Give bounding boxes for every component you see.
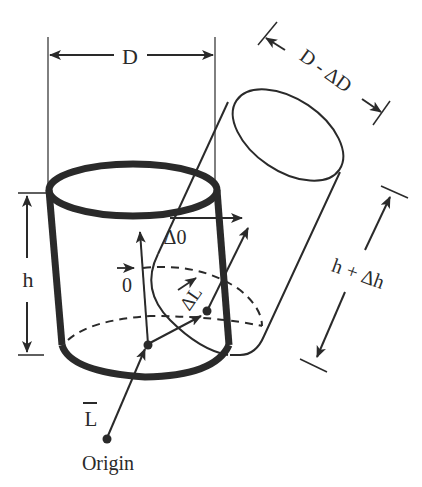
original-left-side	[49, 190, 62, 345]
arrow-downleft-icon	[317, 292, 345, 357]
point-material-end	[203, 307, 212, 316]
height-deformed-tick-bottom	[300, 359, 327, 372]
original-cylinder	[49, 164, 262, 377]
theta-label: 0	[122, 274, 132, 296]
extension-tick-right	[373, 101, 390, 125]
point-material-start	[144, 341, 153, 350]
cylinder-deformation-diagram: D D - ΔD h	[0, 0, 422, 487]
extension-tick-left	[258, 22, 277, 45]
diagram-canvas: D D - ΔD h	[0, 0, 422, 487]
deformed-right-side	[230, 172, 340, 355]
arrow-upleft-icon	[266, 38, 285, 50]
L-label: L	[85, 407, 98, 431]
L-vector-arrow-icon	[107, 349, 145, 438]
original-bottom-hidden-arc	[68, 316, 262, 340]
diameter-deformed-label: D - ΔD	[296, 44, 356, 96]
origin-point	[103, 435, 112, 444]
diameter-label: D	[122, 44, 138, 69]
original-right-side	[217, 190, 229, 345]
original-top-ellipse	[49, 164, 217, 216]
delta-L-label: ΔL	[175, 282, 206, 314]
arrow-upright-icon	[365, 197, 390, 250]
origin-label: Origin	[82, 452, 134, 475]
height-label: h	[23, 267, 34, 292]
arrow-downright-icon	[362, 99, 381, 112]
delta-theta-label: Δ0	[164, 226, 187, 248]
height-deformed-tick-top	[381, 186, 408, 198]
theta-vector-arrow-icon	[140, 232, 148, 344]
height-deformed-label: h + Δh	[329, 254, 387, 293]
